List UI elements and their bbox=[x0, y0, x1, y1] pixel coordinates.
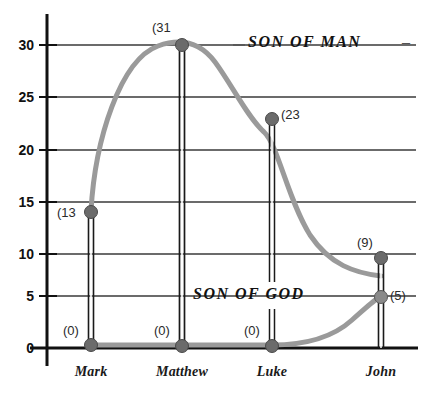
x-tick-label-mark: Mark bbox=[46, 365, 136, 379]
point-label-luke-son-of-god: (0) bbox=[244, 324, 260, 337]
chart-container: 30 25 20 15 10 5 0 Mark Matthew Luke Joh… bbox=[0, 0, 429, 395]
y-tick-label-25: 25 bbox=[4, 90, 34, 104]
data-point-john-son-of-man[interactable] bbox=[375, 252, 388, 265]
connector-bar-matthew bbox=[180, 46, 185, 345]
x-tick-label-matthew: Matthew bbox=[137, 365, 227, 379]
x-tick-label-luke: Luke bbox=[227, 365, 317, 379]
data-point-luke-son-of-god[interactable] bbox=[266, 340, 279, 353]
y-tick-label-30: 30 bbox=[4, 38, 34, 52]
data-point-mark-son-of-man[interactable] bbox=[85, 206, 98, 219]
series-label-son-of-man: SON OF MAN bbox=[248, 34, 361, 50]
son-of-man-curve bbox=[91, 42, 381, 276]
point-label-matthew-son-of-god: (0) bbox=[154, 324, 170, 337]
data-point-john-son-of-god[interactable] bbox=[375, 291, 388, 304]
son-of-god-curve bbox=[91, 297, 381, 345]
y-tick-label-10: 10 bbox=[4, 247, 34, 261]
point-label-mark-son-of-god: (0) bbox=[63, 324, 79, 337]
point-label-john-son-of-god: (5) bbox=[390, 289, 406, 302]
series-label-son-of-god: SON OF GOD bbox=[193, 286, 305, 302]
x-tick-label-john: John bbox=[336, 365, 426, 379]
connector-bar-luke bbox=[270, 120, 275, 345]
legend-dash-right-icon: – bbox=[402, 34, 410, 50]
point-label-mark-son-of-man: (13 bbox=[57, 206, 76, 219]
point-label-luke-son-of-man: (23 bbox=[281, 108, 300, 121]
y-tick-label-0: 0 bbox=[4, 341, 34, 355]
data-point-mark-son-of-god[interactable] bbox=[85, 339, 98, 352]
y-tick-label-20: 20 bbox=[4, 143, 34, 157]
point-label-john-son-of-man: (9) bbox=[357, 236, 373, 249]
connector-bar-mark bbox=[89, 212, 94, 345]
y-tick-label-5: 5 bbox=[4, 289, 34, 303]
y-tick-label-15: 15 bbox=[4, 195, 34, 209]
data-point-matthew-son-of-man[interactable] bbox=[176, 39, 189, 52]
data-point-luke-son-of-man[interactable] bbox=[266, 113, 279, 126]
point-label-matthew-son-of-man: (31 bbox=[152, 21, 171, 34]
data-point-matthew-son-of-god[interactable] bbox=[176, 340, 189, 353]
